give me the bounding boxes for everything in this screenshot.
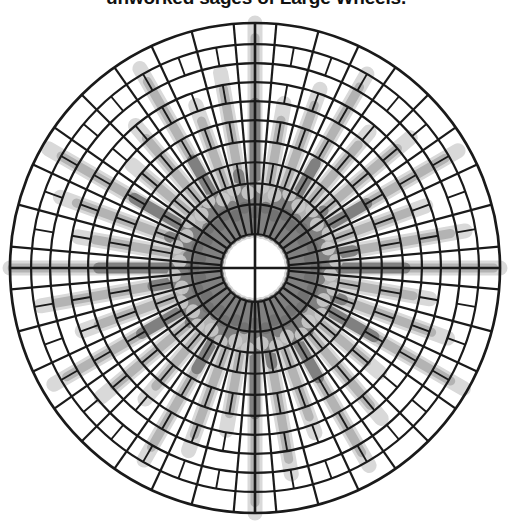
grid-spoke-stagger xyxy=(178,461,185,479)
grid-spoke-stagger xyxy=(457,304,476,307)
grid-spoke-stagger xyxy=(216,470,219,489)
grid-spoke-stagger xyxy=(35,229,54,232)
grid-spoke-stagger xyxy=(291,48,294,67)
grid-spoke-stagger xyxy=(325,58,332,76)
grid-spoke-stagger xyxy=(178,58,185,76)
grid-spoke-stagger xyxy=(387,96,399,111)
grid-spoke-stagger xyxy=(111,425,123,440)
grid-spoke-stagger xyxy=(83,124,98,136)
grid-spoke-stagger xyxy=(412,124,427,136)
grid-spoke-stagger xyxy=(83,400,98,412)
figure-canvas: unworked sages of Large Wheels. xyxy=(0,0,512,529)
grid-spoke-stagger xyxy=(113,148,128,160)
grid-spoke-stagger xyxy=(448,191,466,198)
grid-spoke-stagger xyxy=(216,48,219,67)
grid-spoke-stagger xyxy=(387,425,399,440)
grid-spoke-stagger xyxy=(111,96,123,111)
grid-spoke-stagger xyxy=(383,375,398,387)
polar-wheel-chart xyxy=(0,0,512,529)
grid-spoke-stagger xyxy=(325,461,332,479)
grid-spoke-stagger xyxy=(45,338,63,345)
grid-spoke-stagger xyxy=(412,400,427,412)
